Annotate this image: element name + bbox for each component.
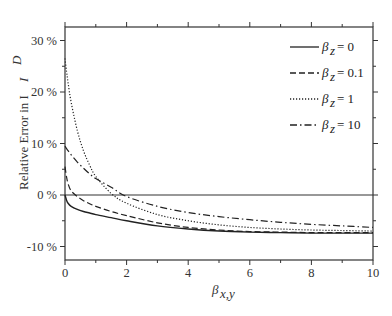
legend-subscript: z	[329, 69, 335, 84]
series-line-1	[65, 167, 373, 233]
plot-frame	[65, 27, 373, 260]
legend-label: = 0.1	[337, 65, 364, 80]
x-tick-label: 10	[367, 266, 380, 280]
y-axis-title-superscript: D	[9, 55, 24, 66]
legend-beta: β	[321, 117, 329, 132]
data-series	[65, 59, 373, 234]
y-tick-label: 30 %	[31, 34, 57, 48]
x-tick-label: 6	[247, 266, 253, 280]
legend-beta: β	[321, 91, 329, 106]
series-line-3	[65, 146, 373, 227]
y-axis-title: Relative Error in I ​	[16, 92, 31, 190]
y-tick-label: 20 %	[31, 85, 57, 99]
x-tick-label: 0	[62, 266, 68, 280]
y-tick-label: -10 %	[27, 240, 57, 254]
plot-border	[65, 27, 373, 260]
legend-beta: β	[321, 39, 329, 54]
legend-subscript: z	[329, 121, 335, 136]
y-axis-title-I: I	[16, 77, 31, 83]
y-tick-label: 0 %	[37, 188, 57, 202]
axis-ticks: 0246810-10 %0 %10 %20 %30 %	[27, 22, 379, 280]
relative-error-chart: 0246810-10 %0 %10 %20 %30 % Relative Err…	[0, 0, 392, 316]
x-axis-title: β	[211, 282, 219, 297]
legend-label: = 0	[337, 39, 354, 54]
x-tick-label: 2	[123, 266, 129, 280]
series-line-2	[65, 59, 373, 232]
x-tick-label: 4	[185, 266, 192, 280]
legend-label: = 10	[337, 117, 361, 132]
x-axis-title-subscript: x,y	[219, 286, 235, 301]
y-tick-label: 10 %	[31, 137, 57, 151]
legend-subscript: z	[329, 95, 335, 110]
x-tick-label: 8	[308, 266, 314, 280]
legend-label: = 1	[337, 91, 354, 106]
legend: βz= 0βz= 0.1βz= 1βz= 10	[290, 39, 364, 136]
legend-subscript: z	[329, 43, 335, 58]
series-line-0	[65, 195, 373, 233]
legend-beta: β	[321, 65, 329, 80]
